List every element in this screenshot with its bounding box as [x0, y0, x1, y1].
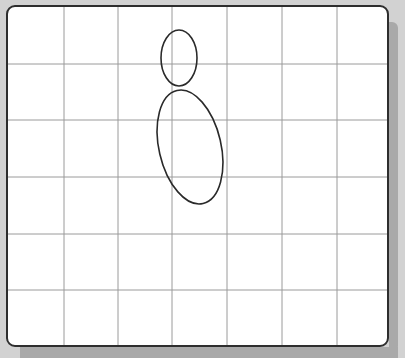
- large-ellipse[interactable]: [147, 84, 234, 211]
- grid-canvas[interactable]: [6, 5, 389, 347]
- board-shadow-right: [389, 22, 398, 352]
- board-shadow-bottom: [20, 347, 398, 358]
- small-ellipse[interactable]: [161, 30, 197, 86]
- drawing-board[interactable]: [6, 5, 389, 347]
